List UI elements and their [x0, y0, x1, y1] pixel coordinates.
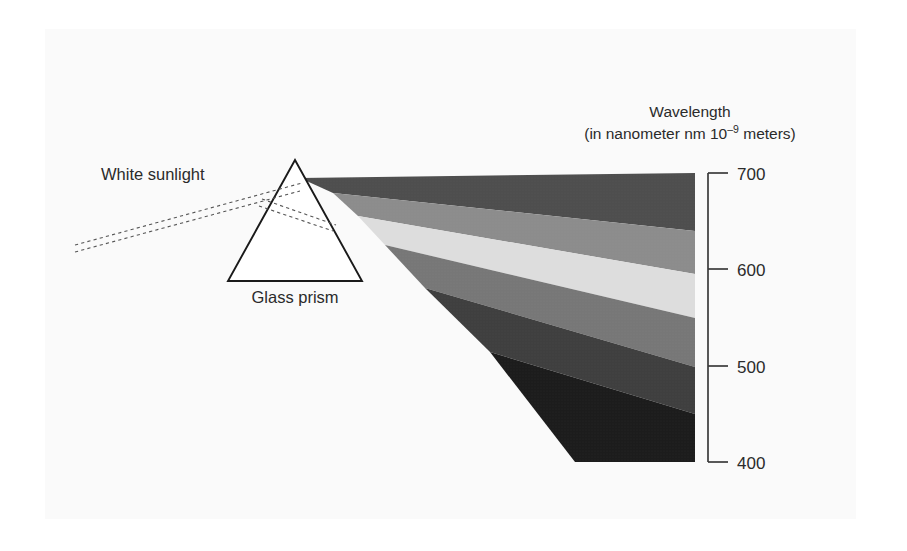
axis-title-line2-suffix: meters) [739, 125, 796, 142]
spectrum-fan [300, 173, 695, 462]
axis-title-line2: (in nanometer nm 10–9 meters) [584, 123, 796, 142]
axis-label-700: 700 [737, 165, 765, 184]
axis-label-500: 500 [737, 358, 765, 377]
axis-tick-labels: 700 600 500 400 [737, 165, 765, 473]
spectrum-texture-overlay [300, 173, 695, 462]
glass-prism-label: Glass prism [251, 288, 338, 306]
white-sunlight-label: White sunlight [101, 165, 205, 183]
wavelength-axis [708, 173, 728, 462]
axis-title-line1: Wavelength [649, 103, 730, 120]
figure-root: White sunlight Glass prism Wavelength (i… [0, 0, 907, 551]
axis-label-600: 600 [737, 261, 765, 280]
prism-dispersion-svg: White sunlight Glass prism Wavelength (i… [0, 0, 907, 551]
axis-title: Wavelength (in nanometer nm 10–9 meters) [584, 103, 796, 142]
axis-title-exponent: –9 [727, 123, 739, 135]
axis-title-line2-prefix: (in nanometer nm 10 [584, 125, 727, 142]
axis-label-400: 400 [737, 454, 765, 473]
